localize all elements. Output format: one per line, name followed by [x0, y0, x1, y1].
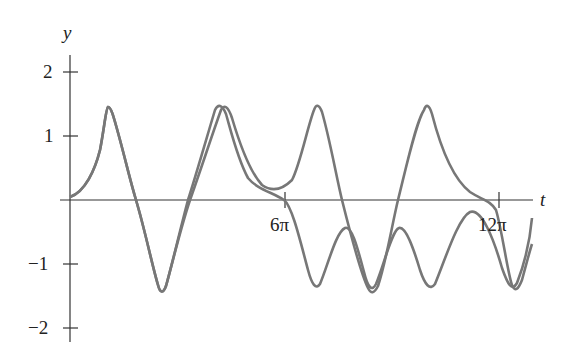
x-tick-label-6pi: 6π [270, 215, 289, 234]
t-axis-label: t [540, 190, 545, 209]
x-tick-label-12pi: 12π [478, 215, 507, 234]
chart-canvas [0, 0, 571, 362]
series-solution-1-line [70, 106, 532, 293]
y-tick-label-m1: −1 [28, 254, 48, 273]
series-solution-2-line [70, 106, 532, 292]
y-tick-label-1: 1 [44, 126, 54, 145]
y-axis-label: y [63, 23, 71, 42]
y-tick-label-m2: −2 [28, 318, 48, 337]
t-axis-label-text: t [540, 189, 545, 210]
y-tick-label-2: 2 [43, 62, 53, 81]
